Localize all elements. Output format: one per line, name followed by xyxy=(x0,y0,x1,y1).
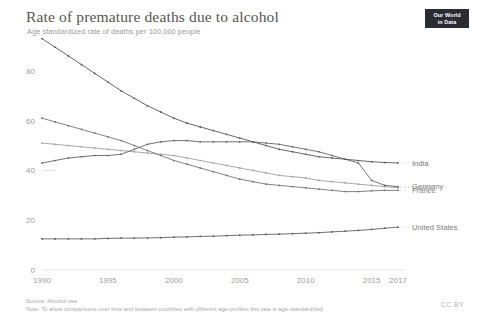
data-point xyxy=(41,238,43,240)
data-point xyxy=(278,175,280,177)
data-point xyxy=(94,132,96,134)
data-point xyxy=(344,182,346,184)
data-point xyxy=(147,152,149,154)
data-point xyxy=(292,146,294,148)
data-point xyxy=(371,161,373,163)
data-point xyxy=(120,90,122,92)
data-point xyxy=(81,64,83,66)
data-point xyxy=(173,140,175,142)
data-point xyxy=(41,117,43,119)
data-point xyxy=(265,142,267,144)
y-axis-tick-label: 80 xyxy=(26,67,35,76)
data-point xyxy=(397,162,399,164)
note-text: Note: To allow comparisons over time and… xyxy=(26,305,426,313)
data-point xyxy=(160,111,162,113)
data-point xyxy=(173,160,175,162)
data-point xyxy=(239,178,241,180)
data-point xyxy=(213,235,215,237)
data-point xyxy=(160,141,162,143)
series-line-2[interactable] xyxy=(42,118,398,191)
data-point xyxy=(213,130,215,132)
data-point xyxy=(147,237,149,239)
legend-label-united-states[interactable]: United States xyxy=(412,223,458,232)
data-point xyxy=(133,97,135,99)
data-point xyxy=(397,190,399,192)
y-axis-tick-label: 0 xyxy=(31,266,36,275)
data-point xyxy=(81,146,83,148)
data-point xyxy=(252,234,254,236)
data-point xyxy=(278,148,280,150)
data-point xyxy=(226,134,228,136)
data-point xyxy=(173,117,175,119)
data-point xyxy=(120,150,122,152)
data-point xyxy=(41,162,43,164)
data-point xyxy=(278,143,280,145)
data-point xyxy=(54,121,56,123)
data-point xyxy=(331,231,333,233)
data-point xyxy=(68,157,70,159)
data-point xyxy=(239,167,241,169)
data-point xyxy=(358,191,360,193)
data-point xyxy=(54,143,56,145)
data-point xyxy=(54,46,56,48)
x-axis-tick-label: 2017 xyxy=(389,276,407,285)
data-point xyxy=(384,190,386,192)
data-point xyxy=(292,151,294,153)
data-point xyxy=(239,234,241,236)
data-point xyxy=(41,142,43,144)
series-line-3[interactable] xyxy=(42,141,398,187)
data-point xyxy=(226,141,228,143)
x-axis-tick-label: 1990 xyxy=(33,276,51,285)
license-text[interactable]: CC BY xyxy=(441,301,464,308)
data-point xyxy=(331,157,333,159)
data-point xyxy=(186,236,188,238)
data-point xyxy=(68,145,70,147)
data-point xyxy=(199,236,201,238)
data-point xyxy=(107,81,109,83)
data-point xyxy=(199,141,201,143)
data-point xyxy=(81,238,83,240)
legend-label-germany[interactable]: Germany xyxy=(412,182,443,191)
data-point xyxy=(186,163,188,165)
data-point xyxy=(358,162,360,164)
data-point xyxy=(252,170,254,172)
data-point xyxy=(371,190,373,192)
data-point xyxy=(160,237,162,239)
data-point xyxy=(292,186,294,188)
data-point xyxy=(239,141,241,143)
line-chart-plot: 0204060801990199520002005201020152017Ind… xyxy=(0,0,478,321)
data-point xyxy=(199,126,201,128)
data-point xyxy=(265,145,267,147)
data-point xyxy=(186,122,188,124)
data-point xyxy=(371,229,373,231)
data-point xyxy=(226,175,228,177)
series-line-1[interactable] xyxy=(42,143,398,188)
source-text: Source: Alcohol use xyxy=(26,297,426,305)
data-point xyxy=(226,165,228,167)
series-india xyxy=(41,38,399,164)
series-line-0[interactable] xyxy=(42,39,398,163)
data-point xyxy=(120,140,122,142)
data-point xyxy=(213,171,215,173)
data-point xyxy=(213,162,215,164)
data-point xyxy=(318,188,320,190)
data-point xyxy=(199,167,201,169)
data-point xyxy=(344,230,346,232)
data-point xyxy=(133,237,135,239)
data-point xyxy=(278,233,280,235)
data-point xyxy=(68,125,70,127)
data-point xyxy=(81,129,83,131)
data-point xyxy=(278,185,280,187)
y-axis-tick-label: 60 xyxy=(26,117,35,126)
x-axis-tick-label: 2005 xyxy=(231,276,249,285)
data-point xyxy=(147,143,149,145)
y-axis-tick-label: 20 xyxy=(26,216,35,225)
data-point xyxy=(331,181,333,183)
data-point xyxy=(147,150,149,152)
data-point xyxy=(384,162,386,164)
series-line-4[interactable] xyxy=(42,227,398,239)
data-point xyxy=(54,238,56,240)
data-point xyxy=(384,227,386,229)
chart-footer: Source: Alcohol use Note: To allow compa… xyxy=(26,297,426,313)
legend-label-india[interactable]: India xyxy=(412,159,429,168)
